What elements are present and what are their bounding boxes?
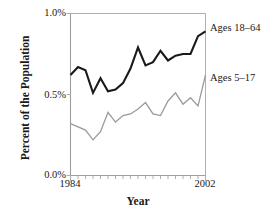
axis-ticks bbox=[67, 14, 206, 182]
plot-area bbox=[0, 0, 280, 220]
axis-frame bbox=[71, 14, 206, 176]
series-line-adults bbox=[71, 31, 206, 93]
data-lines bbox=[71, 31, 206, 140]
chart-figure: Percent of the Population 1.0% 0.5% 0.0%… bbox=[0, 0, 280, 220]
